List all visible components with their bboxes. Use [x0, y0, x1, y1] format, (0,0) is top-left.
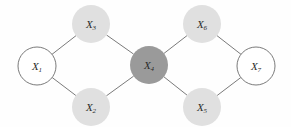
graph-edge-x3-x4	[107, 35, 134, 54]
graph-canvas-svg: X1X3X2X4X6X5X7	[0, 0, 291, 127]
graph-edge-x6-x7	[217, 36, 241, 55]
nodes-group: X1X3X2X4X6X5X7	[18, 5, 275, 126]
graph-node-x5[interactable]: X5	[183, 88, 221, 126]
graph-edge-x1-x3	[52, 36, 76, 55]
graph-node-x7[interactable]: X7	[237, 47, 275, 85]
graph-node-x2[interactable]: X2	[72, 88, 110, 126]
graph-edge-x5-x7	[217, 77, 241, 95]
graph-node-x1[interactable]: X1	[18, 47, 56, 85]
graph-node-x6[interactable]: X6	[183, 5, 221, 43]
graph-edge-x2-x4	[106, 76, 133, 96]
graph-edge-x4-x5	[164, 77, 187, 95]
graph-edge-x1-x2	[52, 77, 76, 95]
graph-edge-x4-x6	[164, 36, 187, 54]
graph-node-x4[interactable]: X4	[130, 46, 168, 84]
graph-diagram: X1X3X2X4X6X5X7	[0, 0, 291, 127]
graph-node-x3[interactable]: X3	[72, 5, 110, 43]
